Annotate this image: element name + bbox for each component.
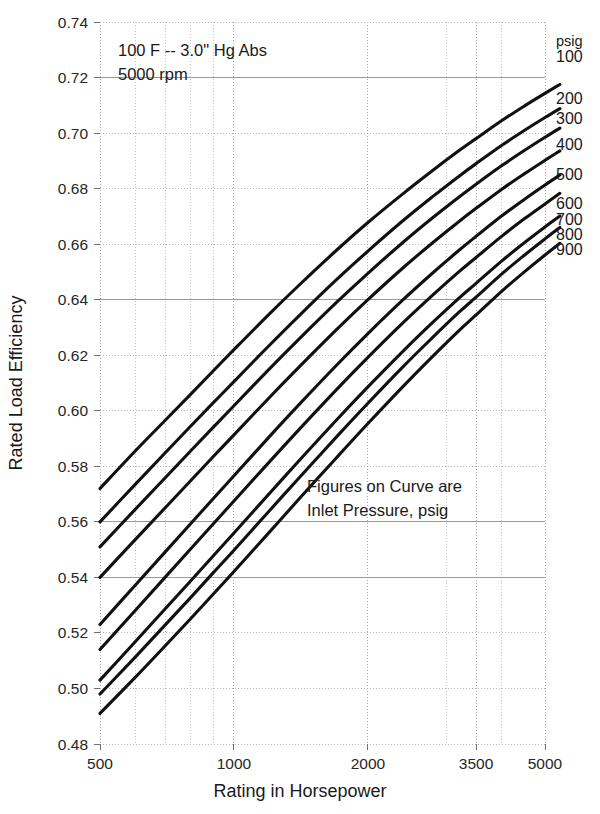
x-tick-label: 1000 — [217, 755, 252, 772]
x-tick-label: 500 — [87, 755, 113, 772]
annotation-conditions-line2: 5000 rpm — [118, 65, 188, 83]
y-tick-label: 0.64 — [58, 291, 89, 308]
annotation-curve-note-line1: Figures on Curve are — [307, 477, 462, 495]
y-tick-label: 0.66 — [58, 236, 88, 253]
legend-header: psig — [556, 33, 583, 49]
series-label-600: 600 — [556, 195, 583, 212]
x-axis-title: Rating in Horsepower — [213, 781, 386, 801]
y-tick-label: 0.58 — [58, 458, 88, 475]
y-tick-label: 0.70 — [58, 125, 89, 142]
series-label-500: 500 — [556, 166, 583, 183]
y-tick-label: 0.52 — [58, 624, 88, 641]
annotation-conditions-line1: 100 F -- 3.0" Hg Abs — [118, 41, 267, 59]
x-tick-label: 5000 — [528, 755, 563, 772]
y-tick-label: 0.60 — [58, 402, 89, 419]
y-tick-label: 0.74 — [58, 14, 89, 31]
series-label-100: 100 — [556, 48, 583, 65]
series-label-300: 300 — [556, 110, 583, 127]
annotation-curve-note-line2: Inlet Pressure, psig — [307, 501, 448, 519]
chart-container: 0.480.500.520.540.560.580.600.620.640.66… — [0, 0, 600, 814]
y-tick-label: 0.54 — [58, 569, 89, 586]
x-tick-label: 2000 — [351, 755, 386, 772]
y-axis-title: Rated Load Efficiency — [6, 296, 26, 471]
efficiency-vs-horsepower-chart: 0.480.500.520.540.560.580.600.620.640.66… — [0, 0, 600, 814]
y-tick-label: 0.56 — [58, 513, 88, 530]
y-tick-label: 0.72 — [58, 69, 88, 86]
series-label-900: 900 — [556, 241, 583, 258]
series-label-200: 200 — [556, 90, 583, 107]
y-tick-label: 0.62 — [58, 347, 88, 364]
y-tick-label: 0.68 — [58, 180, 88, 197]
y-tick-label: 0.48 — [58, 736, 88, 753]
series-label-400: 400 — [556, 136, 583, 153]
y-tick-label: 0.50 — [58, 680, 89, 697]
x-tick-label: 3500 — [459, 755, 494, 772]
chart-background — [0, 0, 600, 814]
